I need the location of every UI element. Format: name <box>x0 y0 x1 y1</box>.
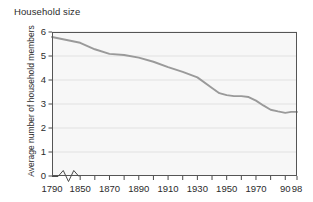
x-tick-label: 1850 <box>70 183 91 194</box>
x-tick-label: 1950 <box>216 183 237 194</box>
x-tick-label: 1890 <box>128 183 149 194</box>
y-tick-label: 4 <box>41 74 46 85</box>
x-tick-label: 1870 <box>99 183 120 194</box>
x-tick-labels: 179018501870189019101930195019709098 <box>41 183 302 194</box>
x-tick-label: 1930 <box>187 183 208 194</box>
x-tick-label: 90 <box>280 183 291 194</box>
y-tick-label: 6 <box>41 26 46 37</box>
y-tick-labels: 0123456 <box>41 26 46 181</box>
x-tick-label: 1970 <box>245 183 266 194</box>
y-tick-label: 2 <box>41 122 46 133</box>
x-tick-label: 98 <box>292 183 303 194</box>
y-tick-label: 3 <box>41 98 46 109</box>
y-tick-label: 5 <box>41 50 46 61</box>
x-tick-label: 1910 <box>158 183 179 194</box>
y-tick-label: 0 <box>41 170 46 181</box>
x-tick-label: 1790 <box>41 183 62 194</box>
x-axis-ticks <box>80 176 297 180</box>
y-axis-ticks <box>49 32 53 176</box>
household-size-chart: Household size Average number of househo… <box>0 0 313 202</box>
plot-canvas: 0123456 17901850187018901910193019501970… <box>0 0 313 202</box>
y-tick-label: 1 <box>41 146 46 157</box>
